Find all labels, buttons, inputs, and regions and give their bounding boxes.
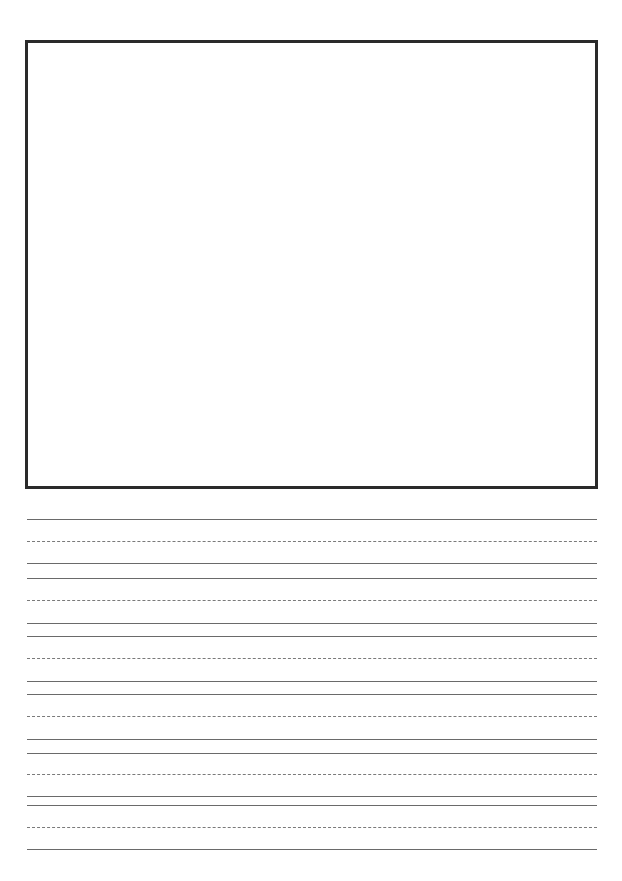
writing-line-solid <box>27 739 597 740</box>
writing-line-solid <box>27 805 597 806</box>
writing-line-solid <box>27 636 597 637</box>
writing-line-solid <box>27 563 597 564</box>
midline-dashed <box>27 600 597 601</box>
midline-dashed <box>27 716 597 717</box>
midline-dashed <box>27 827 597 828</box>
writing-line-solid <box>27 578 597 579</box>
writing-line-solid <box>27 796 597 797</box>
midline-dashed <box>27 658 597 659</box>
midline-dashed <box>27 774 597 775</box>
writing-line-solid <box>27 753 597 754</box>
writing-line-solid <box>27 623 597 624</box>
writing-line-solid <box>27 694 597 695</box>
writing-line-solid <box>27 681 597 682</box>
writing-line-solid <box>27 519 597 520</box>
drawing-box[interactable] <box>25 40 598 489</box>
midline-dashed <box>27 541 597 542</box>
writing-line-solid <box>27 849 597 850</box>
